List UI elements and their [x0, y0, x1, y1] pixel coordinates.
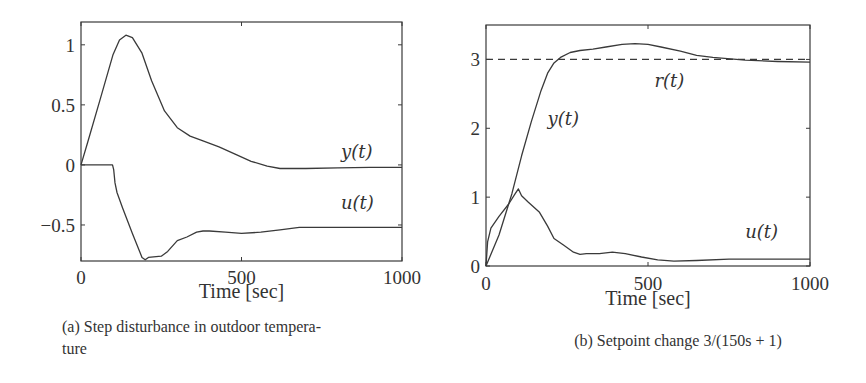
series-label: y(t): [340, 141, 372, 162]
chart-b: 012305001000Time [sec]r(t)y(t)u(t): [433, 0, 866, 383]
series-label: y(t): [547, 108, 579, 129]
y-tick-label: 0.5: [51, 95, 75, 116]
y-tick-label: 3: [471, 49, 481, 70]
y-tick-label: 1: [66, 35, 76, 56]
figure-panel-a: −0.500.5105001000Time [sec]y(t)u(t) (a) …: [0, 0, 433, 383]
series-label: u(t): [745, 221, 778, 242]
x-tick-label: 1000: [383, 267, 421, 288]
y-tick-label: 0: [471, 256, 481, 277]
x-tick-label: 0: [481, 273, 491, 294]
caption-a-line-2: ture: [62, 338, 422, 360]
y-tick-label: −0.5: [41, 215, 75, 236]
figure-panel-b: 012305001000Time [sec]r(t)y(t)u(t) (b) S…: [433, 0, 866, 383]
x-tick-label: 1000: [791, 273, 829, 294]
caption-a-line-1: (a) Step disturbance in outdoor tempera-: [62, 316, 422, 338]
y-tick-label: 2: [471, 118, 481, 139]
y-tick-label: 1: [471, 187, 481, 208]
y-tick-label: 0: [66, 155, 76, 176]
caption-a: (a) Step disturbance in outdoor tempera-…: [62, 316, 422, 360]
x-axis-label: Time [sec]: [605, 287, 690, 309]
x-axis-label: Time [sec]: [199, 280, 284, 302]
x-tick-label: 0: [76, 267, 86, 288]
caption-b: (b) Setpoint change 3/(150s + 1): [508, 330, 848, 352]
series-label: r(t): [654, 70, 684, 91]
series-label: u(t): [341, 192, 374, 213]
